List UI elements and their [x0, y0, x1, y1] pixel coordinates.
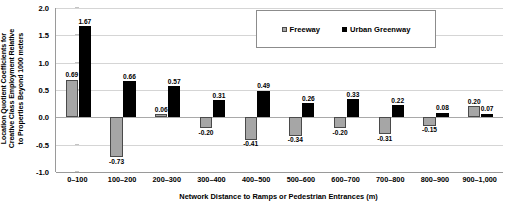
- bar-value-label: 1.67: [72, 18, 98, 25]
- bar-urban-greenway[interactable]: [481, 114, 493, 118]
- x-tick-label: 0–100: [67, 175, 87, 184]
- bar-value-label: 0.33: [340, 91, 366, 98]
- bar-value-label: -0.20: [193, 129, 219, 136]
- gridline--1.0: [56, 172, 503, 173]
- bar-urban-greenway[interactable]: [213, 100, 225, 117]
- x-tick-label: 200–300: [153, 175, 181, 184]
- y-tick-label--0.5: -0.5: [36, 140, 49, 149]
- bar-urban-greenway[interactable]: [392, 105, 404, 117]
- bar-value-label: 0.49: [250, 82, 276, 89]
- x-axis-title: Network Distance to Ramps or Pedestrian …: [55, 192, 502, 201]
- x-axis-tick-labels: 0–100100–200200–300300–400400–500500–600…: [55, 175, 502, 187]
- y-tick-label-2.0: 2.0: [38, 4, 49, 13]
- y-axis-title: Location Quotient Coefficients for Creat…: [0, 0, 26, 178]
- bar-urban-greenway[interactable]: [436, 113, 448, 117]
- bar-value-label: 0.57: [161, 78, 187, 85]
- x-tick-label: 600–700: [331, 175, 359, 184]
- chart-legend: Freeway Urban Greenway: [256, 10, 436, 48]
- bar-urban-greenway[interactable]: [168, 86, 180, 117]
- bar-value-label: -0.41: [238, 140, 264, 147]
- x-tick-label: 900–1,000: [462, 175, 497, 184]
- legend-label-urban-greenway: Urban Greenway: [350, 25, 410, 34]
- y-tick-label-0.5: 0.5: [38, 86, 49, 95]
- bar-freeway[interactable]: [200, 117, 212, 128]
- y-tick-label-1.0: 1.0: [38, 58, 49, 67]
- bar-value-label: 0.66: [116, 73, 142, 80]
- bar-urban-greenway[interactable]: [123, 81, 135, 117]
- x-tick-label: 400–500: [242, 175, 270, 184]
- bar-value-label: 0.07: [474, 105, 500, 112]
- bar-freeway[interactable]: [379, 117, 391, 134]
- bar-urban-greenway[interactable]: [79, 26, 91, 117]
- y-tick-label--1.0: -1.0: [36, 168, 49, 177]
- bar-group: 0.691.67: [56, 8, 101, 172]
- legend-entry-urban-greenway[interactable]: Urban Greenway: [342, 25, 410, 34]
- bar-freeway[interactable]: [289, 117, 301, 136]
- y-tick-label-1.5: 1.5: [38, 31, 49, 40]
- y-axis-title-line-3: to Properties Beyond 1000 meters: [17, 29, 25, 148]
- bar-freeway[interactable]: [155, 114, 167, 117]
- bar-value-label: 0.22: [385, 97, 411, 104]
- x-tick-label: 700–800: [376, 175, 404, 184]
- bar-value-label: -0.20: [327, 129, 353, 136]
- bar-group: 0.200.07: [458, 8, 503, 172]
- bar-freeway[interactable]: [245, 117, 257, 139]
- bar-urban-greenway[interactable]: [302, 103, 314, 117]
- bar-value-label: -0.31: [372, 135, 398, 142]
- bar-value-label: 0.08: [429, 104, 455, 111]
- y-axis-tick-labels: 2.01.51.00.50.0-0.5-1.0: [26, 8, 52, 172]
- bar-freeway[interactable]: [66, 80, 78, 118]
- bar-value-label: -0.34: [282, 136, 308, 143]
- bar-value-label: 0.20: [461, 98, 487, 105]
- y-tick-label-0.0: 0.0: [38, 113, 49, 122]
- bar-freeway[interactable]: [423, 117, 435, 125]
- bar-urban-greenway[interactable]: [347, 99, 359, 117]
- bar-value-label: -0.73: [103, 158, 129, 165]
- bar-chart: Location Quotient Coefficients for Creat…: [0, 0, 510, 210]
- bar-urban-greenway[interactable]: [257, 91, 269, 118]
- legend-label-freeway: Freeway: [290, 25, 320, 34]
- bar-group: -0.730.66: [101, 8, 146, 172]
- legend-entry-freeway[interactable]: Freeway: [282, 25, 320, 34]
- legend-swatch-freeway-icon: [282, 27, 287, 32]
- bar-freeway[interactable]: [334, 117, 346, 128]
- bar-value-label: -0.15: [416, 126, 442, 133]
- bar-value-label: 0.31: [206, 92, 232, 99]
- x-tick-label: 800–900: [421, 175, 449, 184]
- x-tick-label: 300–400: [197, 175, 225, 184]
- bar-group: 0.060.57: [145, 8, 190, 172]
- x-tick-label: 100–200: [108, 175, 136, 184]
- x-tick-label: 500–600: [287, 175, 315, 184]
- legend-swatch-urban-greenway-icon: [342, 27, 347, 32]
- y-axis-title-line-2: Creative Class Employment Relative: [9, 29, 17, 148]
- bar-group: -0.200.31: [190, 8, 235, 172]
- bar-freeway[interactable]: [110, 117, 122, 157]
- bar-value-label: 0.26: [295, 95, 321, 102]
